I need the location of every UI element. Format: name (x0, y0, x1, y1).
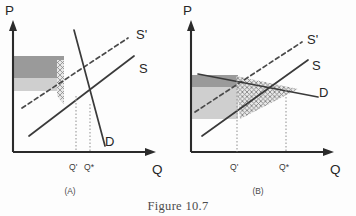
panel-b: P Q S' S D Q' Q* (B) (178, 0, 356, 216)
figure-caption: Figure 10.7 (0, 199, 356, 216)
supply-label-b: S (312, 58, 321, 73)
x-axis-arrowhead-b (323, 148, 334, 156)
panel-label-b: (B) (252, 186, 263, 196)
supply-shifted-label-b: S' (307, 32, 318, 47)
price-increase-band-a (13, 56, 64, 78)
y-axis-label-a: P (5, 3, 14, 18)
q-prime-tick-label-b: Q' (230, 162, 239, 172)
x-axis-label-b: Q (330, 162, 341, 177)
x-axis-arrowhead-a (145, 148, 156, 156)
demand-label-b: D (319, 85, 328, 100)
panel-label-a: (A) (64, 186, 75, 196)
supply-label-a: S (139, 61, 148, 76)
q-star-tick-label-b: Q* (279, 162, 290, 172)
figure-root: P Q S' S D Q' Q* (A) (0, 0, 356, 216)
q-star-tick-label-a: Q* (84, 162, 95, 172)
q-prime-tick-label-a: Q' (69, 162, 78, 172)
x-axis-label-a: Q (152, 162, 163, 177)
demand-label-a: D (105, 134, 114, 149)
y-axis-arrowhead-a (9, 20, 17, 31)
supply-shifted-label-a: S' (136, 27, 147, 42)
panel-a: P Q S' S D Q' Q* (A) (0, 0, 178, 216)
y-axis-label-b: P (183, 3, 192, 18)
y-axis-arrowhead-b (187, 20, 195, 31)
